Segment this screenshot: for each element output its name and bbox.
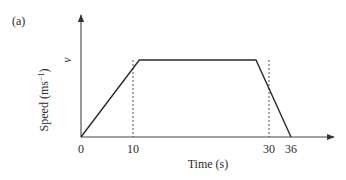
x-tick-label-36: 36 [285, 142, 297, 156]
x-axis-label: Time (s) [188, 157, 229, 171]
y-axis-label: Speed (ms−1) [37, 69, 51, 132]
panel-label: (a) [12, 14, 25, 28]
x-tick-label-10: 10 [127, 142, 139, 156]
speed-line [81, 60, 291, 137]
y-tick-label-v: v [60, 57, 74, 63]
x-tick-label-0: 0 [78, 142, 84, 156]
x-tick-label-30: 30 [263, 142, 275, 156]
speed-time-chart: (a) Speed (ms−1) v 0 10 30 36 Time (s) [0, 0, 346, 180]
